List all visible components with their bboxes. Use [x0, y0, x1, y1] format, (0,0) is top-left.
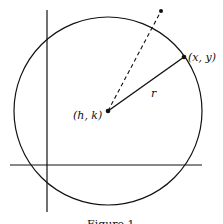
radius-line	[108, 57, 184, 111]
center-point	[106, 109, 111, 114]
point-on-circle	[182, 55, 187, 60]
figure-caption: Figure 1	[87, 218, 135, 224]
center-label: (h, k)	[73, 109, 102, 122]
point-label: (x, y)	[188, 51, 216, 64]
circle-diagram: (h, k) (x, y) r Figure 1	[0, 0, 223, 224]
outer-point	[159, 9, 163, 13]
radius-label: r	[151, 87, 157, 100]
